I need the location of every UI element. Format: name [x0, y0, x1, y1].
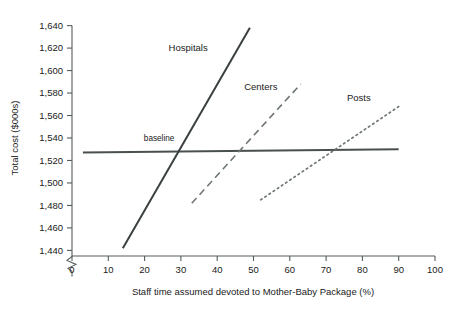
series-label-hospitals: Hospitals — [169, 42, 208, 53]
y-tick-label: 1,460 — [39, 222, 63, 233]
series-label-posts: Posts — [347, 92, 371, 103]
x-tick-label: 30 — [176, 264, 187, 275]
y-tick-label: 1,640 — [39, 20, 63, 31]
y-tick-label: 1,500 — [39, 177, 63, 188]
x-tick-label: 40 — [212, 264, 223, 275]
chart-container: 1,4401,4601,4801,5001,5201,5401,5601,580… — [0, 0, 454, 310]
x-axis-title: Staff time assumed devoted to Mother-Bab… — [132, 286, 374, 297]
y-axis: 1,4401,4601,4801,5001,5201,5401,5601,580… — [39, 20, 76, 276]
series-line-hospitals — [123, 28, 250, 248]
series-line-posts — [261, 107, 399, 200]
x-tick-label: 60 — [285, 264, 296, 275]
x-axis: 0102030405060708090100 — [69, 256, 443, 275]
x-tick-label: 100 — [427, 264, 443, 275]
x-tick-label: 50 — [248, 264, 259, 275]
series-labels: baselineHospitalsCentersPosts — [144, 42, 371, 143]
x-tick-label: 90 — [393, 264, 404, 275]
y-tick-label: 1,600 — [39, 65, 63, 76]
y-tick-label: 1,480 — [39, 200, 63, 211]
x-tick-label: 10 — [103, 264, 114, 275]
series-lines — [83, 28, 399, 248]
line-chart: 1,4401,4601,4801,5001,5201,5401,5601,580… — [0, 0, 454, 310]
y-axis-title: Total cost ($000s) — [9, 101, 20, 176]
y-tick-label: 1,520 — [39, 155, 63, 166]
series-label-centers: Centers — [244, 81, 278, 92]
y-tick-label: 1,440 — [39, 245, 63, 256]
x-tick-label: 80 — [357, 264, 368, 275]
y-tick-label: 1,540 — [39, 132, 63, 143]
y-tick-label: 1,580 — [39, 87, 63, 98]
y-tick-label: 1,560 — [39, 110, 63, 121]
x-tick-label: 70 — [321, 264, 332, 275]
y-tick-label: 1,620 — [39, 42, 63, 53]
series-label-baseline: baseline — [144, 134, 175, 143]
x-tick-label: 0 — [69, 264, 74, 275]
x-tick-label: 20 — [139, 264, 150, 275]
